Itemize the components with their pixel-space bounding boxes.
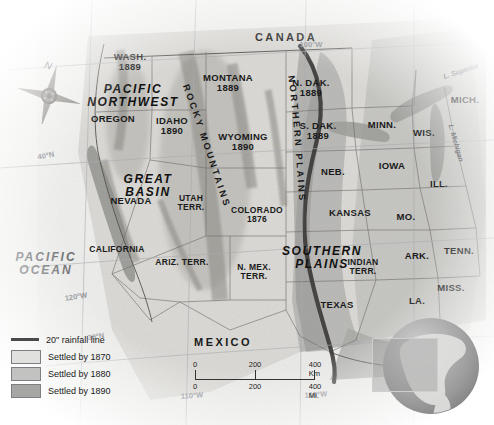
state-label-mich: MICH. <box>451 95 479 105</box>
state-label-texas: TEXAS <box>320 300 353 310</box>
region-label-pacific-northwest: PACIFIC NORTHWEST <box>87 83 179 108</box>
state-label-minn: MINN. <box>368 120 396 130</box>
legend-item-label: 20" rainfall line <box>46 335 105 345</box>
globe-locator-inset <box>369 316 487 420</box>
legend-item-settled-by-1880: Settled by 1880 <box>11 365 143 382</box>
ocean-label-pacific-ocean: PACIFIC OCEAN <box>15 251 76 276</box>
state-label-montana: MONTANA 1889 <box>203 73 253 93</box>
coordinate-label-40-n-0: 40°N <box>37 151 55 162</box>
scale-km-labels: 0 200 400 Km <box>195 360 315 370</box>
state-label-oregon: OREGON <box>91 114 135 124</box>
state-label-wis: WIS. <box>413 128 435 138</box>
coordinate-label-120-w-1: 120°W <box>64 291 88 302</box>
coordinate-label-110-w-4: 110°W <box>181 391 204 400</box>
legend-item-label: Settled by 1880 <box>48 369 111 379</box>
state-label-iowa: IOWA <box>379 161 406 171</box>
legend-color-swatch <box>11 350 41 364</box>
map-legend: 20" rainfall lineSettled by 1870Settled … <box>11 331 143 399</box>
state-label-mo: MO. <box>397 212 416 222</box>
scale-mi-labels: 0 200 400 Mi. <box>195 382 315 392</box>
coordinate-label-100-w-3: 100°W <box>300 41 323 49</box>
state-label-ariz-terr: ARIZ. TERR. <box>155 258 208 267</box>
state-label-colorado: COLORADO 1876 <box>231 206 283 224</box>
state-label-idaho: IDAHO 1890 <box>156 116 188 136</box>
state-label-kansas: KANSAS <box>329 208 371 218</box>
state-label-utah-terr: UTAH TERR. <box>178 194 205 212</box>
scale-bar-rule <box>195 370 315 380</box>
state-label-tenn: TENN. <box>444 246 474 256</box>
legend-item-label: Settled by 1890 <box>48 386 111 396</box>
state-label-la: LA. <box>409 296 425 306</box>
state-label-n-dak: N. DAK. 1889 <box>292 78 329 98</box>
historical-settlement-map: ROCKY MOUNTAINS NORTHERN PLAINS CANADAME… <box>0 0 494 425</box>
globe-extent-rectangle <box>372 338 438 392</box>
state-label-n-mex-terr: N. MEX. TERR. <box>237 263 271 281</box>
state-label-miss: MISS. <box>437 283 464 293</box>
lake-label-l-superior: L. Superior <box>442 62 479 80</box>
scale-bar: 0 200 400 Km 0 200 400 Mi. <box>195 360 315 392</box>
state-label-s-dak: S. DAK. 1889 <box>300 121 337 141</box>
legend-item-settled-by-1890: Settled by 1890 <box>11 382 143 399</box>
legend-line-swatch <box>11 338 39 341</box>
state-label-indian-terr: INDIAN TERR. <box>347 258 378 276</box>
state-label-california: CALIFORNIA <box>89 245 144 254</box>
legend-item-settled-by-1870: Settled by 1870 <box>11 348 143 365</box>
state-label-wyoming: WYOMING 1890 <box>218 132 268 152</box>
country-label-mexico: MEXICO <box>194 337 252 349</box>
legend-color-swatch <box>11 367 41 381</box>
legend-item-20-rainfall-line: 20" rainfall line <box>11 331 143 348</box>
legend-item-label: Settled by 1870 <box>48 352 111 362</box>
state-label-nevada: NEVADA <box>110 196 151 206</box>
legend-color-swatch <box>11 384 41 398</box>
state-label-neb: NEB. <box>321 167 345 177</box>
state-label-wash: WASH. 1889 <box>114 52 147 72</box>
state-label-ill: ILL. <box>430 179 448 189</box>
state-label-ark: ARK. <box>405 251 429 261</box>
lake-label-l-michigan: L. Michigan <box>447 123 465 162</box>
